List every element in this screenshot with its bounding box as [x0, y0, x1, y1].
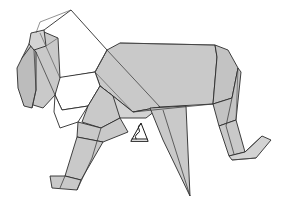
artwork-canvas: Origami Lion lion flat vector line art w… [0, 0, 282, 203]
foreleg-lower-panel [65, 137, 103, 180]
ear-flap [29, 30, 46, 50]
mane-outer-flap [17, 46, 36, 108]
artist-signature-mark [131, 123, 148, 141]
hindleg-lower-panel [219, 120, 245, 156]
origami-lion-illustration [0, 0, 282, 203]
midleg-wedge-panel [150, 106, 190, 196]
